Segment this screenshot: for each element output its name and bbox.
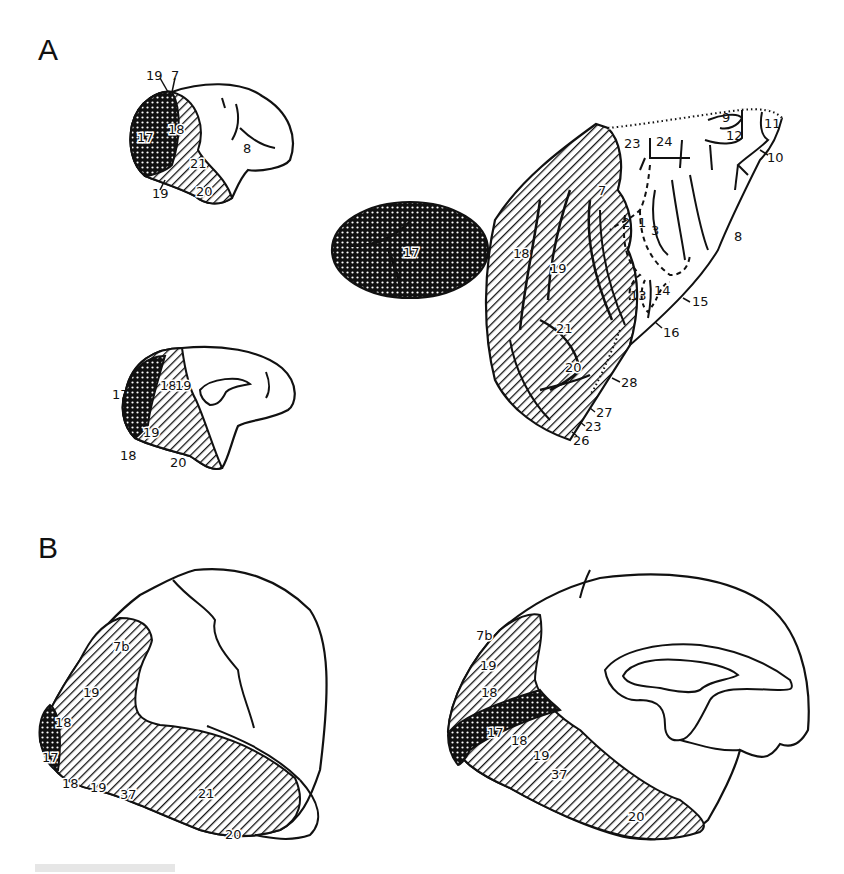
label: 13 bbox=[630, 288, 647, 303]
label: 19 bbox=[175, 378, 192, 393]
label: 17 bbox=[137, 130, 154, 145]
label: 20 bbox=[565, 360, 582, 375]
label: 8 bbox=[734, 229, 742, 244]
label: 12 bbox=[726, 128, 743, 143]
label: 18 bbox=[513, 246, 530, 261]
label: 27 bbox=[596, 405, 613, 420]
label: 20 bbox=[225, 827, 242, 842]
a-medial-brain: 17 18 19 19 18 20 bbox=[112, 347, 295, 470]
label: 14 bbox=[654, 283, 671, 298]
label: 37 bbox=[551, 767, 568, 782]
label: 20 bbox=[196, 184, 213, 199]
label: 19 bbox=[143, 425, 160, 440]
panel-label-b: B bbox=[38, 531, 58, 564]
label: 19 bbox=[83, 685, 100, 700]
label: 19 bbox=[550, 261, 567, 276]
label: 21 bbox=[556, 321, 573, 336]
label: 18 bbox=[120, 448, 137, 463]
label: 23 bbox=[585, 419, 602, 434]
label: 9 bbox=[722, 110, 730, 125]
label: 8 bbox=[243, 141, 251, 156]
b-medial-brain: 7b 19 18 17 18 19 37 20 bbox=[448, 570, 809, 839]
label: 21 bbox=[190, 156, 207, 171]
label: 19 bbox=[533, 748, 550, 763]
label: 16 bbox=[663, 325, 680, 340]
a-flatmap: 17 18 19 7 21 20 23 24 9 12 11 10 2 1 3 … bbox=[332, 109, 784, 448]
label: 18 bbox=[62, 776, 79, 791]
label: 7 bbox=[598, 183, 606, 198]
label: 7b bbox=[476, 628, 493, 643]
b-lateral-brain: 7b 19 18 17 18 19 37 21 20 bbox=[39, 569, 326, 842]
label: 18 bbox=[511, 733, 528, 748]
label: 19 bbox=[480, 658, 497, 673]
label: 7 bbox=[171, 68, 179, 83]
caption-fragment bbox=[35, 864, 175, 872]
label: 28 bbox=[621, 375, 638, 390]
label: 26 bbox=[573, 433, 590, 448]
label: 10 bbox=[767, 150, 784, 165]
label: 17 bbox=[487, 725, 504, 740]
label: 20 bbox=[170, 455, 187, 470]
label: 3 bbox=[651, 223, 659, 238]
label: 24 bbox=[656, 134, 673, 149]
label: 20 bbox=[628, 809, 645, 824]
label: 17 bbox=[112, 387, 129, 402]
panel-label-a: A bbox=[38, 33, 58, 66]
label: 1 bbox=[638, 215, 646, 230]
figure-canvas: A B 19 7 17 18 8 21 19 20 17 18 19 19 18… bbox=[0, 0, 844, 874]
label: 18 bbox=[481, 685, 498, 700]
label: 11 bbox=[764, 116, 781, 131]
label: 18 bbox=[55, 715, 72, 730]
label: 21 bbox=[198, 786, 215, 801]
label: 19 bbox=[152, 186, 169, 201]
label: 19 bbox=[90, 780, 107, 795]
label: 18 bbox=[168, 122, 185, 137]
label: 2 bbox=[622, 215, 630, 230]
label: 17 bbox=[403, 245, 420, 260]
label: 15 bbox=[692, 294, 709, 309]
label: 7b bbox=[113, 639, 130, 654]
label: 19 bbox=[146, 68, 163, 83]
label: 23 bbox=[624, 136, 641, 151]
label: 37 bbox=[120, 787, 137, 802]
label: 17 bbox=[42, 750, 59, 765]
a-lateral-brain: 19 7 17 18 8 21 19 20 bbox=[131, 68, 293, 203]
